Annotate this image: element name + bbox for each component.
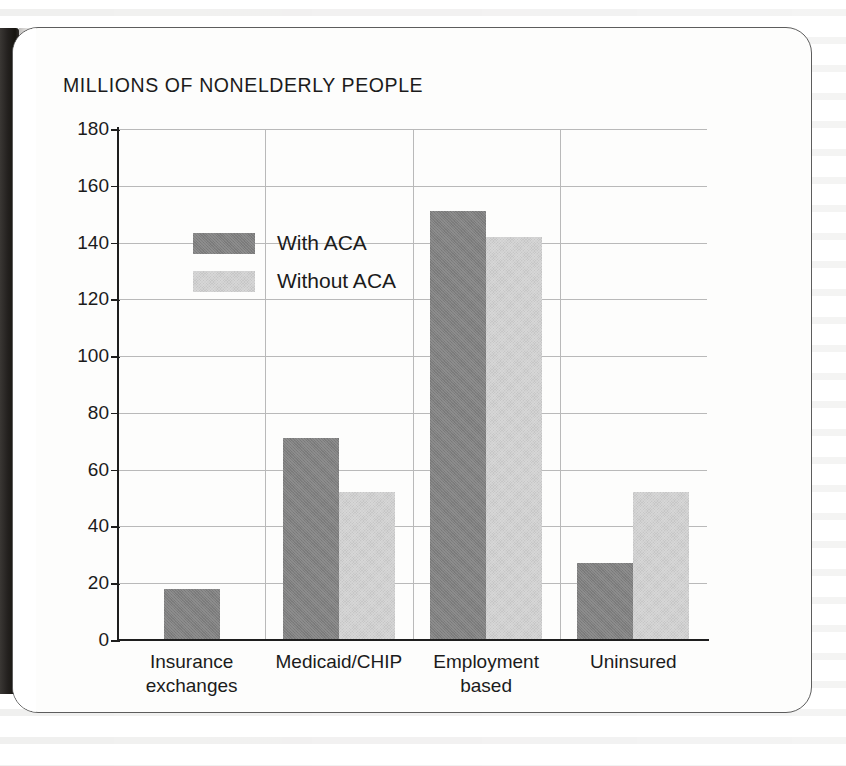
y-axis-line (117, 127, 119, 642)
y-tick-label-0: 0 (53, 629, 109, 651)
legend-entry-without-aca: Without ACA (193, 262, 433, 300)
legend-entry-with-aca: With ACA (193, 224, 433, 262)
legend-swatch-with-aca (193, 233, 255, 254)
plot-area (118, 129, 707, 640)
bar-3-with-aca[interactable] (577, 563, 633, 640)
figure-card: MILLIONS OF NONELDERLY PEOPLE 0204060801… (12, 27, 812, 713)
bar-group-2 (413, 211, 560, 640)
y-tick-label-20: 20 (53, 572, 109, 594)
bar-group-3 (560, 492, 707, 640)
bar-1-without-aca[interactable] (339, 492, 395, 640)
chart-legend: With ACA Without ACA (193, 224, 433, 300)
legend-swatch-without-aca (193, 271, 255, 292)
bar-group-1 (265, 438, 412, 640)
bar-1-with-aca[interactable] (283, 438, 339, 640)
scanned-page-background: MILLIONS OF NONELDERLY PEOPLE 0204060801… (0, 0, 846, 766)
x-axis-line (117, 639, 709, 641)
bar-group-0 (118, 589, 265, 640)
bar-3-without-aca[interactable] (633, 492, 689, 640)
category-label-1: Medicaid/CHIP (265, 650, 412, 674)
y-tick-label-120: 120 (53, 288, 109, 310)
y-tick-label-80: 80 (53, 402, 109, 424)
bar-2-without-aca[interactable] (486, 237, 542, 640)
y-tick-label-60: 60 (53, 459, 109, 481)
legend-label-with-aca: With ACA (277, 231, 367, 255)
chart-title: MILLIONS OF NONELDERLY PEOPLE (63, 74, 423, 97)
y-tick-label-160: 160 (53, 175, 109, 197)
category-label-3: Uninsured (560, 650, 707, 674)
legend-label-without-aca: Without ACA (277, 269, 396, 293)
y-tick-label-40: 40 (53, 515, 109, 537)
y-tick-label-140: 140 (53, 232, 109, 254)
x-axis-category-labels: Insurance exchangesMedicaid/CHIPEmployme… (118, 650, 707, 710)
bar-0-with-aca[interactable] (164, 589, 220, 640)
y-axis-tick-labels: 020406080100120140160180 (49, 129, 109, 640)
bar-2-with-aca[interactable] (430, 211, 486, 640)
category-label-0: Insurance exchanges (118, 650, 265, 698)
y-tick-label-100: 100 (53, 345, 109, 367)
figure-card-left-mask (13, 28, 36, 713)
y-tick-label-180: 180 (53, 118, 109, 140)
category-label-2: Employment based (413, 650, 560, 698)
